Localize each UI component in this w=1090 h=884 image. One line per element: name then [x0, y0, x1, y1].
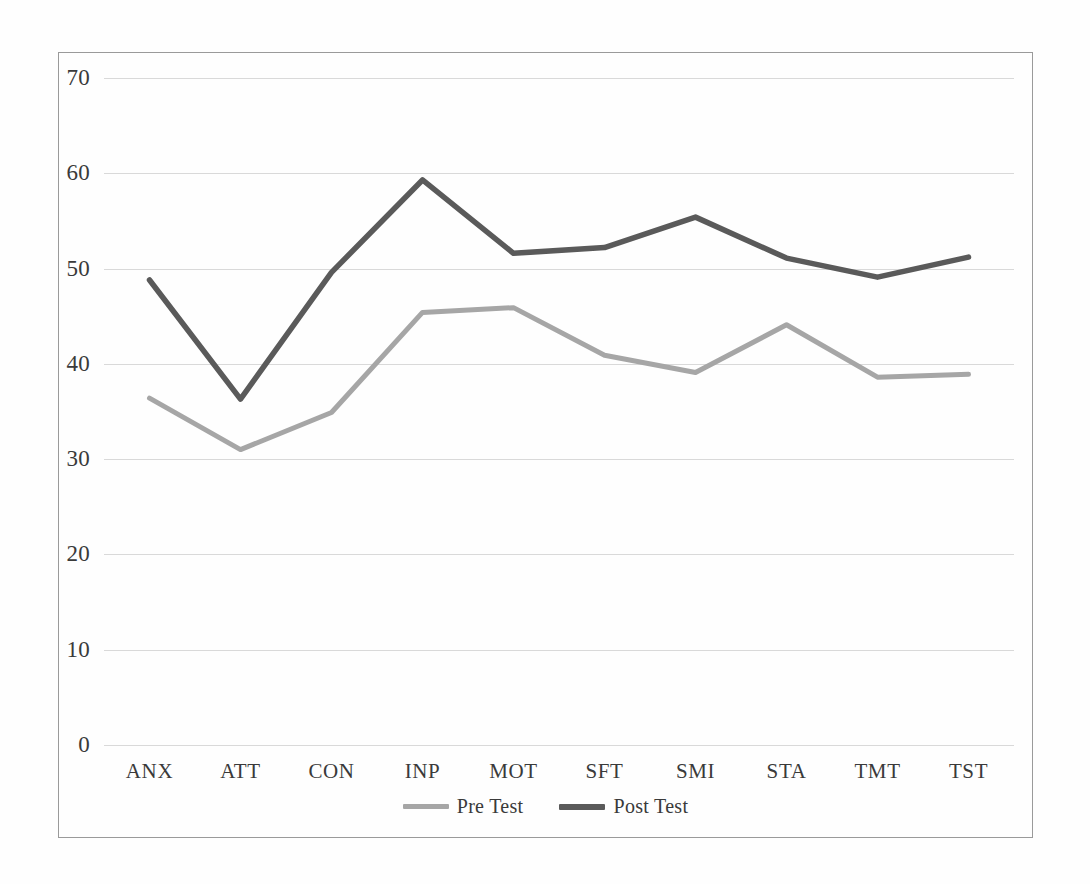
x-tick-label-con: CON	[308, 759, 354, 784]
x-tick-label-mot: MOT	[489, 759, 537, 784]
series-lines	[104, 78, 1014, 745]
x-tick-label-smi: SMI	[676, 759, 715, 784]
line-post-test	[150, 180, 969, 399]
y-tick-label-50: 50	[66, 256, 90, 282]
x-tick-label-anx: ANX	[126, 759, 173, 784]
plot-area: 706050403020100 ANXATTCONINPMOTSFTSMISTA…	[104, 78, 1014, 745]
y-tick-label-10: 10	[66, 637, 90, 663]
y-tick-label-70: 70	[66, 65, 90, 91]
legend-swatch-icon	[559, 804, 605, 810]
y-tick-label-30: 30	[66, 446, 90, 472]
legend-label: Post Test	[613, 795, 688, 818]
gridline-0	[104, 745, 1014, 746]
chart-legend: Pre TestPost Test	[58, 795, 1033, 818]
y-tick-label-60: 60	[66, 160, 90, 186]
legend-label: Pre Test	[457, 795, 524, 818]
x-tick-label-sta: STA	[767, 759, 807, 784]
x-tick-label-sft: SFT	[586, 759, 624, 784]
y-tick-label-0: 0	[78, 732, 90, 758]
legend-swatch-icon	[403, 804, 449, 809]
line-pre-test	[150, 308, 969, 450]
legend-item-pre-test[interactable]: Pre Test	[403, 795, 524, 818]
chart-canvas: 706050403020100 ANXATTCONINPMOTSFTSMISTA…	[0, 0, 1090, 884]
x-tick-label-tmt: TMT	[854, 759, 900, 784]
legend-item-post-test[interactable]: Post Test	[559, 795, 688, 818]
y-tick-label-20: 20	[66, 541, 90, 567]
x-tick-label-tst: TST	[949, 759, 988, 784]
x-tick-label-inp: INP	[405, 759, 441, 784]
y-tick-label-40: 40	[66, 351, 90, 377]
x-tick-label-att: ATT	[220, 759, 260, 784]
